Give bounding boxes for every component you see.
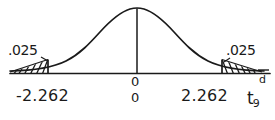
critical-value-label-right: 2.262: [181, 88, 228, 104]
center-tick-label: 0: [131, 75, 139, 88]
axis-variable-label: t9: [247, 90, 260, 109]
degrees-of-freedom-mark: d: [259, 74, 266, 85]
tail-area-label-right: .025: [226, 43, 256, 57]
center-value-label: 0: [131, 91, 139, 104]
t-distribution-diagram: .025 .025 0 0 -2.262 2.262 d t9: [0, 0, 275, 120]
critical-value-label-left: -2.262: [16, 88, 69, 104]
tail-area-label-left: .025: [8, 43, 38, 57]
axis-variable-subscript: 9: [253, 97, 260, 110]
